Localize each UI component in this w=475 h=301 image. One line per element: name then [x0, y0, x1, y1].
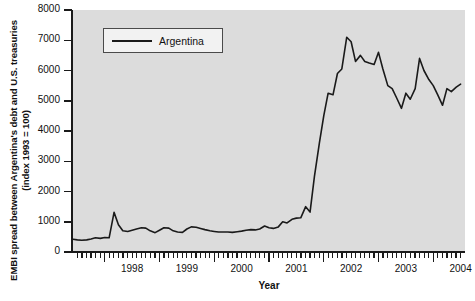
x-axis-title: Year	[73, 280, 465, 291]
legend-swatch-argentina	[112, 40, 152, 42]
chart-legend: Argentina	[103, 28, 223, 53]
legend-label-argentina: Argentina	[159, 35, 204, 47]
series-argentina	[0, 0, 475, 301]
chart-figure: EMBI spread between Argentina's debt and…	[0, 0, 475, 301]
